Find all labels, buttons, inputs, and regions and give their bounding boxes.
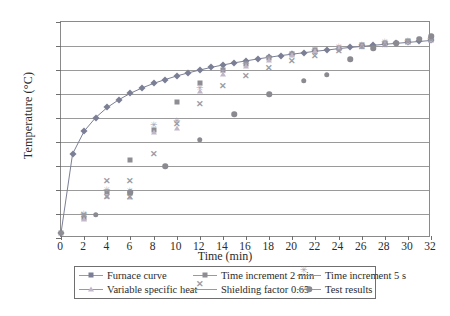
legend-item-furnace-curve[interactable]: Furnace curve (79, 270, 193, 281)
legend-marker-triangle-icon (79, 285, 103, 294)
chart-figure: Temperature (°C) Time (min) ✳✳✳✳✳✳✳✳✳✳✳✳… (0, 0, 450, 316)
data-point (428, 34, 434, 40)
legend-item-shielding-factor-0-65[interactable]: ✕Shielding factor 0.65 (193, 284, 297, 295)
legend-marker-circle-icon (297, 285, 321, 294)
legend-label: Furnace curve (107, 270, 167, 281)
legend-label: Variable specific heat (107, 284, 197, 295)
furnace-curve-line (61, 22, 429, 236)
legend-item-time-increment-2-min[interactable]: Time increment 2 min (193, 270, 297, 281)
legend-marker-glyph: ✳ (299, 265, 309, 274)
legend-marker-glyph (203, 272, 208, 277)
legend-marker-diamond-icon (79, 271, 103, 280)
legend-marker-glyph: ✕ (195, 280, 205, 289)
plot-area: ✳✳✳✳✳✳✳✳✳✳✳✳✳✳✳✳✕✕✕✕✕✕✕✕✕✕✕✕✕✕✕✕✕✕ (60, 21, 430, 237)
legend-marker-star-icon: ✳ (297, 271, 321, 280)
legend-marker-glyph (89, 272, 94, 277)
legend-label: Test results (325, 284, 372, 295)
legend-item-time-increment-5-s[interactable]: ✳Time increment 5 s (297, 270, 406, 281)
legend-marker-glyph (88, 287, 94, 292)
legend-marker-square-icon (193, 271, 217, 280)
x-tick-label: 32 (415, 240, 445, 252)
legend-label: Time increment 5 s (325, 270, 406, 281)
legend-item-test-results[interactable]: Test results (297, 284, 406, 295)
legend-item-variable-specific-heat[interactable]: Variable specific heat (79, 284, 193, 295)
legend-marker-glyph (306, 287, 312, 293)
legend-marker-x-icon: ✕ (193, 285, 217, 294)
y-axis-label: Temperature (°C) (21, 36, 36, 196)
chart-legend: Furnace curveTime increment 2 min✳Time i… (74, 266, 376, 299)
